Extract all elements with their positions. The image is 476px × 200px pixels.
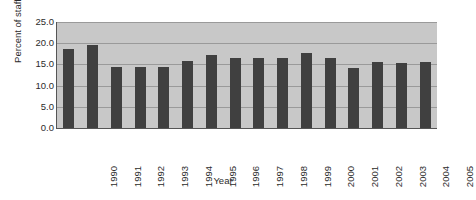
bar [372,62,383,128]
bar [158,67,169,128]
bar-series [57,22,437,128]
y-axis-tick-label: 10.0 [20,81,54,91]
y-axis-tick-label: 0.0 [20,123,54,133]
y-axis-tick-label: 25.0 [20,17,54,27]
bar [111,67,122,128]
bar [396,63,407,128]
y-axis-tick-label: 15.0 [20,59,54,69]
bar [63,49,74,128]
bar [325,58,336,128]
bar [348,68,359,128]
y-axis-tick-label: 20.0 [20,38,54,48]
bar [87,45,98,128]
y-axis-tick-labels: 25.020.015.010.05.00.0 [16,0,54,194]
bar [301,53,312,128]
x-axis-line [56,128,437,129]
bar [230,58,241,128]
x-axis-tick-labels: 1990199119921993199419951996199719981999… [57,130,437,170]
bar [253,58,264,128]
bar [420,62,431,128]
bar [277,58,288,128]
bar [182,61,193,128]
bar [206,55,217,128]
y-axis-tick-label: 5.0 [20,102,54,112]
plot-area [57,22,437,128]
bar [135,67,146,128]
x-axis-tick-label: 2005 [464,166,476,200]
x-axis-title: Year [0,175,446,186]
